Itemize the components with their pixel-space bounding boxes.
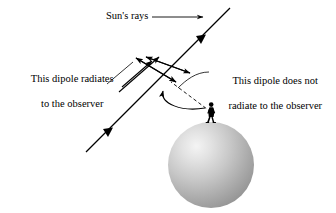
line-of-sight-dashed: [171, 82, 211, 112]
leader-line-not-radiates: [178, 72, 209, 88]
label-dipole-radiates: This dipole radiates to the observer: [8, 60, 126, 123]
curved-arrow-to-dipole: [163, 91, 205, 109]
label-dipole-radiates-line2: to the observer: [41, 98, 103, 109]
label-dipole-not-radiates-line1: This dipole does not: [232, 75, 317, 86]
earth-sphere: [168, 122, 254, 208]
figure-canvas: Sun's rays This dipole radiates to the o…: [0, 0, 336, 213]
label-dipole-not-radiates: This dipole does not radiate to the obse…: [208, 62, 332, 125]
label-dipole-not-radiates-line2: radiate to the observer: [228, 100, 322, 111]
label-suns-rays: Sun's rays: [106, 10, 148, 23]
label-dipole-radiates-line1: This dipole radiates: [31, 73, 114, 84]
